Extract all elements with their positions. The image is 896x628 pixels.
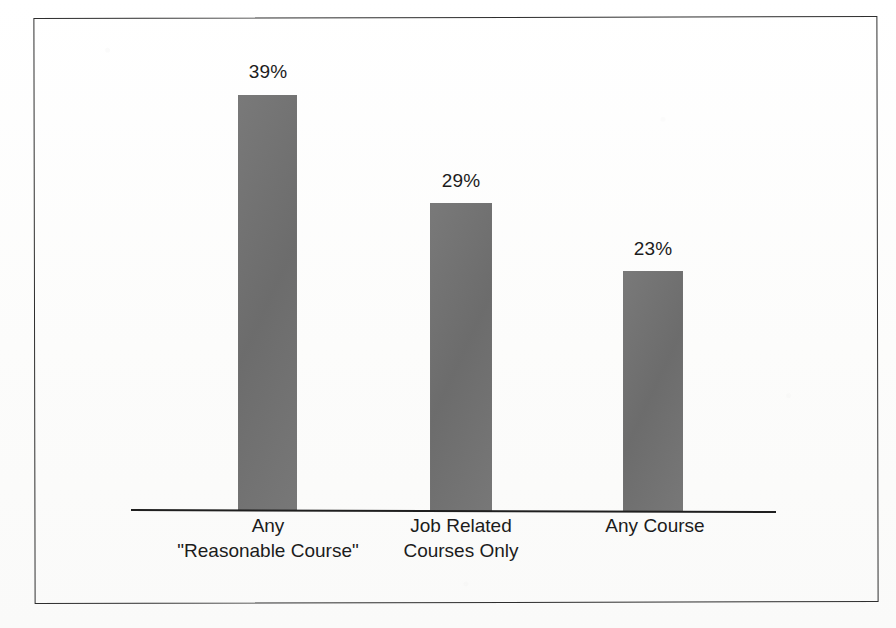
bar-value-label-3: 23% — [593, 238, 713, 260]
category-label-1-line2: "Reasonable Course" — [138, 538, 398, 563]
category-label-2-line2: Courses Only — [361, 538, 561, 563]
bar-value-label-1: 39% — [208, 61, 328, 83]
category-label-1-line1: Any — [252, 515, 285, 536]
category-label-2-line1: Job Related — [410, 515, 511, 536]
category-label-3-line1: Any Course — [605, 515, 704, 536]
plot-area: 39% 29% 23% Any "Reasonable Course" Job … — [0, 0, 896, 628]
bar-job-related-courses-only — [430, 203, 492, 511]
category-label-2: Job Related Courses Only — [361, 513, 561, 563]
bar-value-label-2: 29% — [401, 170, 521, 192]
category-label-1: Any "Reasonable Course" — [138, 513, 398, 563]
bar-any-course — [623, 271, 683, 511]
category-label-3: Any Course — [565, 513, 745, 538]
chart-screenshot: 39% 29% 23% Any "Reasonable Course" Job … — [0, 0, 896, 628]
bar-any-reasonable-course — [238, 95, 297, 511]
